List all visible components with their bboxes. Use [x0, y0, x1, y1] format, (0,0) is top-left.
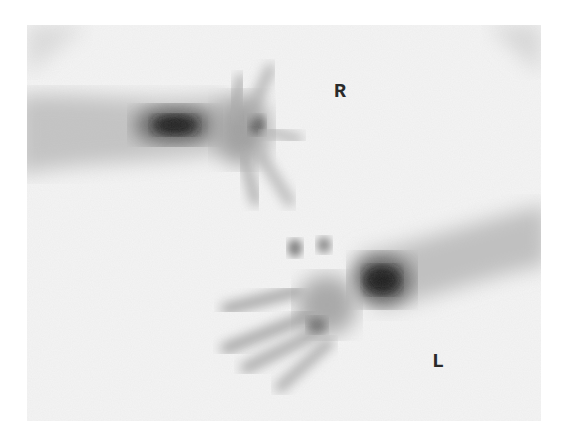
scintigraphy-image: R L [27, 25, 541, 421]
right-side-label: R [334, 80, 346, 103]
hands-scan-graphic [27, 25, 541, 421]
left-side-label: L [432, 350, 444, 373]
